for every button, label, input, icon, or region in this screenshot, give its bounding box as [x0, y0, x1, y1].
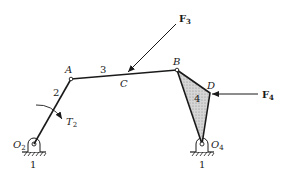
link-4	[177, 70, 210, 144]
joint-b	[175, 68, 179, 72]
pivot-o4	[200, 142, 204, 146]
label-o4: O4	[211, 139, 224, 152]
label-f4: F4	[262, 89, 274, 102]
label-ground-left: 1	[30, 159, 36, 170]
label-t2: T2	[66, 116, 77, 129]
linkage-diagram: A 3 C B D 4 2 F3 F4 T2 O2 O4 1 1	[0, 0, 283, 181]
label-link-4: 4	[194, 93, 200, 104]
label-link-2: 2	[53, 87, 59, 98]
label-a: A	[64, 64, 72, 75]
label-o2: O2	[13, 139, 26, 152]
diagram-svg: A 3 C B D 4 2 F3 F4 T2 O2 O4 1 1	[0, 0, 283, 181]
force-f3-arrow	[128, 24, 176, 72]
label-b: B	[172, 56, 180, 67]
label-link-3: 3	[100, 64, 106, 75]
joint-a	[69, 77, 73, 81]
label-c: C	[120, 78, 128, 89]
label-d: D	[206, 80, 215, 91]
label-f3: F3	[179, 13, 191, 26]
label-ground-right: 1	[199, 159, 205, 170]
